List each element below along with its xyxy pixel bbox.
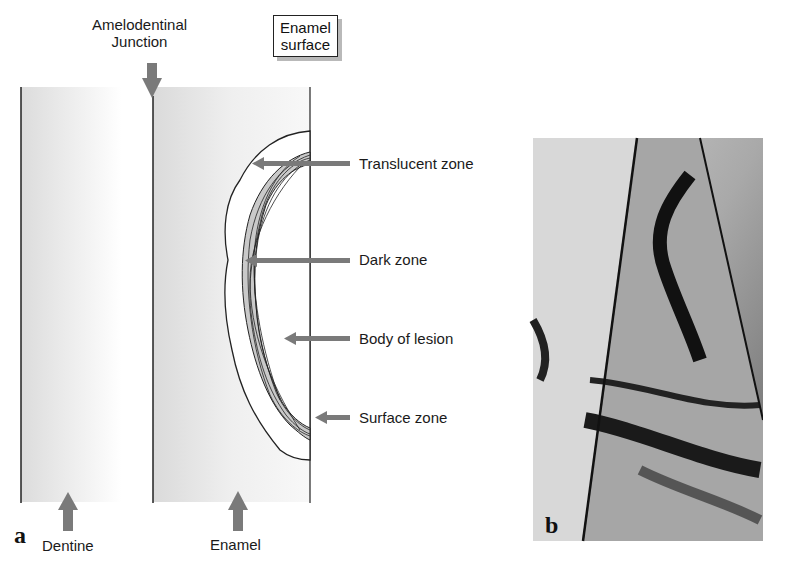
translucent-zone-label: Translucent zone — [359, 155, 474, 172]
surface-zone-arrow — [315, 411, 350, 424]
enamel-surface-box: Enamel surface — [273, 15, 338, 57]
body-of-lesion-label: Body of lesion — [359, 330, 453, 347]
dentine-label: Dentine — [42, 537, 94, 554]
diagram-canvas — [0, 0, 788, 561]
panel-b-letter: b — [545, 512, 558, 539]
panel-a-letter: a — [14, 522, 26, 549]
surface-zone-label: Surface zone — [359, 409, 447, 426]
dark-zone-label: Dark zone — [359, 251, 427, 268]
body-of-lesion-arrow — [284, 332, 350, 345]
adj-label: Amelodentinal Junction — [92, 16, 187, 50]
adj-label-line2: Junction — [92, 33, 187, 50]
micrograph-image — [533, 138, 788, 541]
enamel-surface-line1: Enamel — [280, 19, 331, 36]
adj-label-line1: Amelodentinal — [92, 16, 187, 33]
enamel-label: Enamel — [210, 536, 261, 553]
dentine-region — [21, 87, 121, 503]
enamel-surface-line2: surface — [280, 36, 331, 53]
